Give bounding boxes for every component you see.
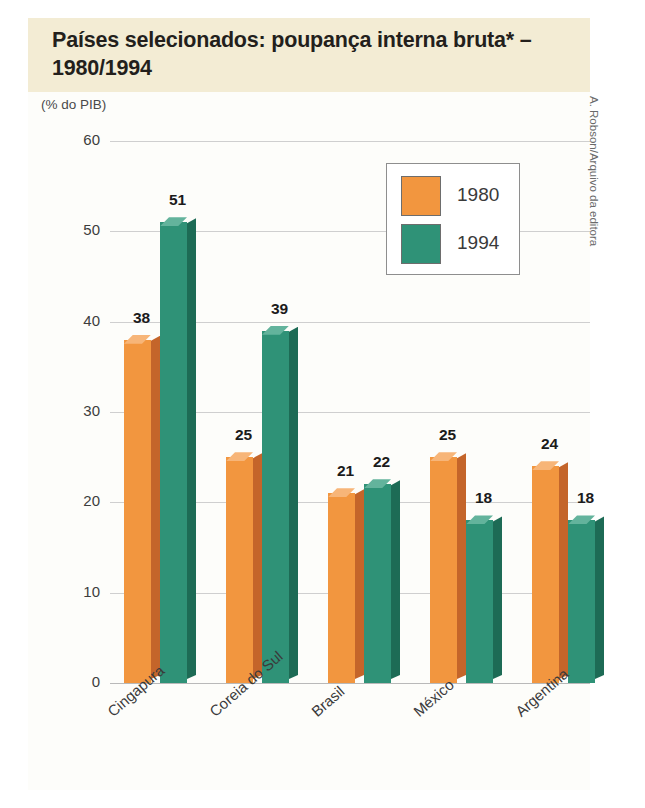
legend-label-1994: 1994 — [457, 232, 499, 254]
legend-swatch-1980 — [401, 176, 441, 216]
bar-value-label: 24 — [527, 435, 573, 453]
axis-baseline — [110, 683, 590, 684]
chart-figure: Países selecionados: poupança interna br… — [0, 0, 645, 808]
bar-face-side — [253, 453, 262, 679]
bar-face-side — [151, 336, 160, 679]
chart-legend: 1980 1994 — [386, 163, 520, 275]
bar-face-front — [160, 222, 187, 683]
image-credit: A. Robson/Arquivo da editora — [588, 96, 600, 246]
gridline — [110, 141, 590, 142]
bar-face-side — [187, 218, 196, 679]
bar-value-label: 22 — [359, 453, 405, 471]
y-axis-tick-label: 50 — [52, 221, 100, 238]
bar-face-front — [430, 457, 457, 683]
bar-1994-brasil — [364, 484, 391, 683]
bar-face-side — [595, 516, 604, 679]
bar-1980-méxico — [430, 457, 457, 683]
bar-value-label: 25 — [221, 426, 267, 444]
bar-value-label: 38 — [119, 309, 165, 327]
bar-1980-cingapura — [124, 340, 151, 683]
bar-face-front — [364, 484, 391, 683]
bar-value-label: 18 — [563, 489, 609, 507]
y-axis-tick-label: 10 — [52, 583, 100, 600]
chart-title: Países selecionados: poupança interna br… — [52, 26, 552, 83]
bar-value-label: 51 — [155, 191, 201, 209]
y-axis-tick-label: 60 — [52, 131, 100, 148]
bar-face-side — [355, 489, 364, 679]
y-axis-tick-label: 40 — [52, 312, 100, 329]
bar-1994-coreia-do-sul — [262, 331, 289, 683]
y-axis-tick-label: 30 — [52, 402, 100, 419]
legend-swatch-1994 — [401, 224, 441, 264]
bar-1994-méxico — [466, 520, 493, 683]
x-axis-category-label: Brasil — [308, 682, 347, 719]
bar-face-front — [262, 331, 289, 683]
bar-1994-argentina — [568, 520, 595, 683]
bar-face-front — [328, 493, 355, 683]
bar-face-side — [457, 453, 466, 679]
bar-value-label: 39 — [257, 300, 303, 318]
bar-face-side — [391, 480, 400, 679]
y-axis-tick-label: 20 — [52, 492, 100, 509]
bar-face-front — [124, 340, 151, 683]
bar-face-side — [493, 516, 502, 679]
bar-face-front — [466, 520, 493, 683]
bar-1980-coreia-do-sul — [226, 457, 253, 683]
bar-value-label: 25 — [425, 426, 471, 444]
y-axis-tick-label: 0 — [52, 673, 100, 690]
bar-face-side — [289, 327, 298, 679]
bar-1994-cingapura — [160, 222, 187, 683]
bar-1980-brasil — [328, 493, 355, 683]
bar-face-front — [226, 457, 253, 683]
bar-1980-argentina — [532, 466, 559, 683]
legend-label-1980: 1980 — [457, 184, 499, 206]
bar-face-front — [532, 466, 559, 683]
bar-face-front — [568, 520, 595, 683]
bar-value-label: 18 — [461, 489, 507, 507]
